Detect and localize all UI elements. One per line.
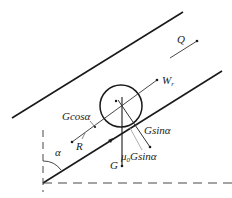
wr-end-dot — [156, 79, 159, 82]
label-r: R — [76, 141, 83, 152]
alpha-angle-arc — [43, 161, 61, 170]
gsin-end-dot — [149, 146, 152, 149]
gravity-end-dot — [121, 165, 124, 168]
gcos-leader-line — [90, 121, 95, 127]
upper-track-line — [12, 12, 183, 118]
q-end-dot — [196, 40, 199, 43]
wheel-center-dot — [115, 100, 117, 102]
label-mu-gsin: Gsinα — [130, 150, 157, 162]
label-friction: μ0Gsinα — [121, 151, 157, 164]
label-gcos-alpha: Gcosα — [62, 111, 90, 122]
label-g: G — [110, 160, 118, 171]
label-wr: Wr — [162, 75, 174, 88]
label-gsin-alpha: Gsinα — [144, 125, 171, 136]
gcos-dot — [94, 126, 96, 128]
r-end-dot — [71, 141, 74, 144]
label-w: W — [162, 74, 171, 86]
friction-leader-line — [130, 128, 142, 150]
label-q: Q — [177, 34, 185, 45]
label-alpha: α — [55, 147, 61, 158]
label-w-subscript: r — [171, 80, 174, 88]
force-diagram: Q Wr Gcosα R Gsinα μ0Gsinα G α — [0, 0, 232, 198]
